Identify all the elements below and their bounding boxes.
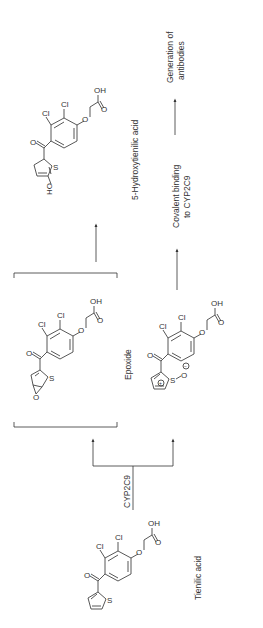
svg-text:O: O — [26, 349, 32, 358]
svg-text:O: O — [82, 115, 88, 124]
enzyme-label: CYP2C9 — [122, 475, 132, 508]
svg-text:Cl: Cl — [42, 109, 50, 118]
svg-text:OH: OH — [211, 299, 223, 308]
tienilic-acid-structure: S O Cl Cl O O OH — [84, 519, 161, 609]
svg-text:O: O — [101, 105, 107, 114]
svg-text:Cl: Cl — [57, 311, 65, 320]
metabolism-diagram: S O Cl Cl O O OH Tienilic acid CYP2C9 S … — [0, 0, 263, 628]
svg-text:+: + — [159, 380, 162, 386]
epoxide-structure: S O O Cl Cl O O OH — [26, 297, 103, 402]
svg-text:O: O — [147, 351, 153, 360]
svg-text:O: O — [199, 328, 205, 337]
hydroxytienilic-acid-label: 5-Hydroxytienilic acid — [130, 119, 140, 200]
svg-text:−: − — [184, 363, 187, 369]
antibodies-label-line2: antibodies — [176, 41, 186, 80]
svg-text:S: S — [49, 374, 54, 383]
svg-text:O: O — [30, 138, 36, 147]
svg-text:S: S — [107, 596, 112, 605]
svg-text:O: O — [155, 538, 161, 547]
antibodies-label-line1: Generation of — [165, 31, 175, 83]
svg-text:HO: HO — [45, 183, 54, 195]
svg-text:OH: OH — [148, 519, 160, 528]
svg-text:O: O — [136, 548, 142, 557]
svg-text:Cl: Cl — [96, 542, 104, 551]
svg-text:Cl: Cl — [38, 320, 46, 329]
svg-text:Cl: Cl — [115, 533, 123, 542]
cyp2c9-branch-arrows — [93, 440, 173, 510]
svg-text:Cl: Cl — [178, 313, 186, 322]
svg-text:S: S — [170, 376, 175, 385]
svg-text:O: O — [181, 371, 187, 380]
tienilic-acid-label: Tienilic acid — [193, 556, 203, 600]
svg-text:OH: OH — [90, 297, 102, 306]
svg-text:O: O — [218, 318, 224, 327]
thiophene-sulfoxide-structure: S O − + O Cl Cl O O OH — [147, 299, 224, 389]
svg-text:O: O — [97, 316, 103, 325]
svg-text:OH: OH — [94, 86, 106, 95]
svg-text:S: S — [53, 163, 58, 172]
hydroxytienilic-acid-structure: S HO O Cl Cl O O OH — [30, 86, 107, 195]
svg-text:Cl: Cl — [159, 322, 167, 331]
svg-text:O: O — [78, 326, 84, 335]
covalent-binding-label-line2: to CYP2C9 — [182, 175, 192, 218]
epoxide-label: Epoxide — [123, 349, 133, 380]
covalent-binding-label-line1: Covalent binding — [171, 164, 181, 228]
svg-text:O: O — [33, 393, 39, 402]
svg-text:O: O — [84, 571, 90, 580]
svg-text:Cl: Cl — [61, 100, 69, 109]
